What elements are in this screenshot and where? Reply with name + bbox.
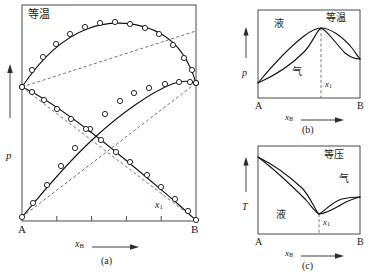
panel-c-composition-label: x1 <box>323 218 330 227</box>
panel-a-y-axis-label: p <box>6 150 12 161</box>
panel-c: 等压 气 液 x1 T A B xB (c) <box>232 136 372 274</box>
panel-b-x-axis-subscript: B <box>289 116 293 122</box>
raoult-line-A <box>22 87 196 220</box>
panel-b-y-axis-arrow <box>243 27 248 58</box>
panel-b-composition-label: x1 <box>325 80 332 89</box>
panel-c-vapor-region-label: 气 <box>339 174 349 184</box>
panel-c-x-axis-label: xB <box>285 249 293 258</box>
panel-b-vapor-region-label: 气 <box>292 67 302 77</box>
panel-c-caption: (c) <box>302 261 313 271</box>
panel-c-right-endpoint: B <box>357 237 364 247</box>
panel-a-caption: (a) <box>101 256 112 266</box>
panel-a-x-axis-subscript: B <box>79 242 84 249</box>
panel-c-composition-subscript: 1 <box>327 221 330 227</box>
panel-c-inside-label: 等压 <box>324 150 344 160</box>
panel-c-y-axis-arrow <box>243 157 248 192</box>
panel-b-y-axis-label: p <box>242 68 247 78</box>
panel-a-frame <box>22 5 196 221</box>
panel-b-right-endpoint: B <box>357 101 364 111</box>
panel-a-composition-label: x1 <box>155 200 163 211</box>
panel-b-inside-label: 等温 <box>326 13 346 23</box>
panel-a-composition-subscript: 1 <box>159 203 162 210</box>
panel-b: 液 等温 气 x1 p A B xB (b) <box>232 0 372 138</box>
phase-diagram-figure: 等温 x1 A B xB p (a) <box>0 0 372 274</box>
panel-a-inside-label: 等温 <box>28 9 50 20</box>
total-pressure-markers <box>19 19 198 89</box>
panel-c-y-axis-label: T <box>242 202 248 212</box>
panel-a-y-axis-arrow <box>7 64 13 118</box>
panel-a-left-endpoint: A <box>18 224 26 235</box>
panel-a-x-ticks <box>57 216 161 221</box>
panel-b-left-endpoint: A <box>255 101 262 111</box>
panel-b-composition-subscript: 1 <box>329 83 332 89</box>
total-pressure-curve <box>22 23 196 87</box>
panel-a: 等温 x1 A B xB p (a) <box>0 0 232 274</box>
panel-c-frame <box>258 146 360 234</box>
panel-c-liquid-region-label: 液 <box>276 210 286 220</box>
panel-c-left-endpoint: A <box>255 237 262 247</box>
panel-b-x-axis-label: xB <box>285 113 293 122</box>
panel-b-liquid-region-label: 液 <box>274 19 284 29</box>
panel-b-caption: (b) <box>302 125 314 135</box>
panel-c-x-axis-arrow <box>301 252 345 260</box>
panel-c-x-axis-subscript: B <box>289 252 293 258</box>
panel-c-vapor-line <box>258 157 360 214</box>
panel-b-x-axis-arrow <box>301 116 345 124</box>
panel-a-x-axis-label: xB <box>75 239 84 250</box>
panel-b-vapor-line <box>258 28 360 83</box>
panel-a-right-endpoint: B <box>191 224 198 235</box>
panel-a-x-axis-arrow <box>92 243 140 251</box>
